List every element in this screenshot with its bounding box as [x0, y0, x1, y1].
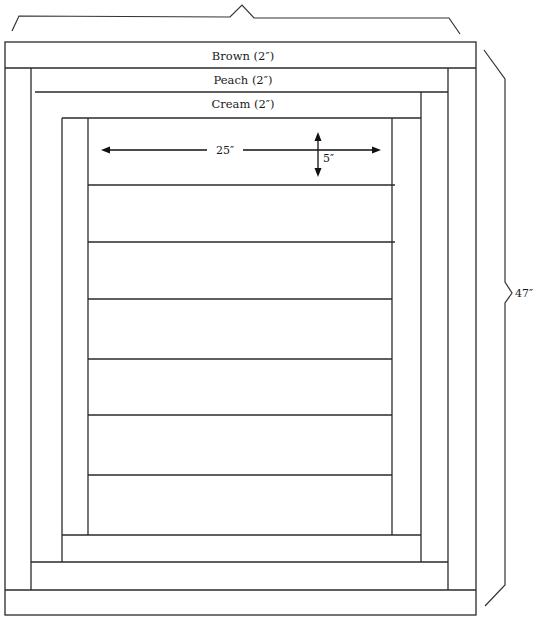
brown-label: Brown (2″): [212, 49, 274, 63]
brown-border: Brown (2″): [5, 42, 476, 615]
arrow-left-icon: [101, 147, 110, 154]
quilt-diagram: 47″ Brown (2″) Peach (2″): [0, 0, 535, 619]
top-width-brace: [12, 5, 460, 34]
cream-label: Cream (2″): [211, 97, 274, 111]
strip-height-label: 5″: [323, 152, 334, 165]
arrow-down-icon: [315, 168, 322, 177]
right-height-brace: 47″: [484, 50, 533, 606]
cream-border: Cream (2″): [62, 92, 421, 562]
strip-length-label: 25″: [216, 144, 234, 157]
height-dimension-label: 47″: [515, 287, 533, 300]
peach-label: Peach (2″): [214, 73, 273, 87]
peach-border: Peach (2″): [31, 68, 448, 590]
arrow-up-icon: [315, 132, 322, 141]
strip-height-dimension: 5″: [315, 132, 335, 177]
arrow-right-icon: [372, 147, 381, 154]
center-panel: [88, 118, 395, 535]
strip-length-dimension: 25″: [101, 144, 381, 157]
